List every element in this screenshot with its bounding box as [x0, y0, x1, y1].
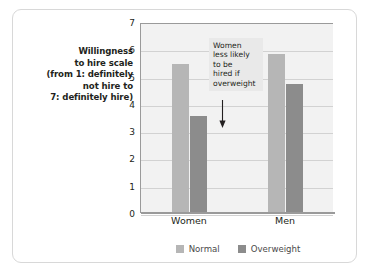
y-tick-label: 0 — [113, 209, 135, 219]
y-tick-label: 7 — [113, 18, 135, 28]
annotation-line-4: hired if — [213, 69, 260, 78]
bar-men-normal — [268, 54, 285, 214]
legend-label-overweight: Overweight — [251, 244, 301, 254]
x-axis-line — [141, 212, 335, 214]
y-axis-ticks: 76543210 — [111, 23, 135, 213]
gridline — [141, 106, 333, 107]
y-tick-label: 4 — [113, 100, 135, 110]
y-tick-label: 1 — [113, 182, 135, 192]
gridline — [141, 160, 333, 161]
annotation-box: Women less likely to be hired if overwei… — [209, 38, 263, 91]
bar-women-overweight — [190, 116, 207, 214]
bar-men-overweight — [286, 84, 303, 214]
chart-card: Willingness to hire scale (from 1: defin… — [12, 9, 357, 263]
legend-item-normal: Normal — [176, 244, 220, 254]
annotation-line-2: less likely — [213, 50, 260, 59]
legend: Normal Overweight — [141, 244, 335, 254]
legend-item-overweight: Overweight — [238, 244, 301, 254]
annotation-line-3: to be — [213, 60, 260, 69]
x-tick-label-women: Women — [149, 215, 229, 226]
annotation-line-5: overweight — [213, 79, 260, 88]
down-arrow-icon — [218, 100, 227, 128]
annotation-line-1: Women — [213, 41, 260, 50]
x-tick-label-men: Men — [245, 215, 325, 226]
y-tick-label: 3 — [113, 127, 135, 137]
y-tick-label: 2 — [113, 154, 135, 164]
bar-women-normal — [172, 64, 189, 214]
y-tick-label: 6 — [113, 45, 135, 55]
gridline — [141, 133, 333, 134]
gridline — [141, 188, 333, 189]
legend-label-normal: Normal — [189, 244, 220, 254]
legend-swatch-overweight — [238, 245, 246, 253]
y-tick-label: 5 — [113, 73, 135, 83]
legend-swatch-normal — [176, 245, 184, 253]
